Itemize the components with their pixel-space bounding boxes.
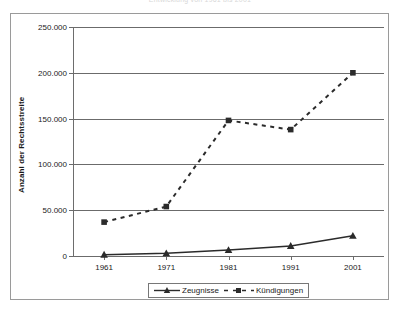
- x-tick-label: 1991: [282, 263, 300, 272]
- x-tick: [353, 256, 354, 260]
- y-tick: [69, 256, 73, 257]
- x-tick: [229, 256, 230, 260]
- data-point-marker: [349, 232, 357, 239]
- legend-sample-dashed-square-icon: [224, 286, 254, 295]
- x-tick-label: 1971: [157, 263, 175, 272]
- plot-area: 050.000100.000150.000200.000250.000 1961…: [73, 27, 384, 256]
- y-axis-title: Anzahl der Rechtsstreite: [13, 70, 29, 220]
- legend-sample-solid-triangle-icon: [154, 286, 180, 295]
- y-tick-label: 150.000: [38, 114, 67, 123]
- data-point-marker: [226, 118, 232, 124]
- y-tick-label: 50.000: [43, 206, 67, 215]
- chart-screenshot: Entwicklung von 1961 bis 2001 Anzahl der…: [0, 0, 397, 312]
- legend-entry-kuendigungen: Kündigungen: [224, 286, 303, 295]
- y-tick-label: 0: [63, 252, 67, 261]
- x-tick-label: 2001: [344, 263, 362, 272]
- legend-label-zeugnisse: Zeugnisse: [182, 287, 219, 295]
- series-line-kündigungen: [104, 73, 353, 222]
- data-point-marker: [288, 127, 294, 133]
- y-tick-label: 200.000: [38, 68, 67, 77]
- legend-label-kuendigungen: Kündigungen: [256, 287, 303, 295]
- data-point-marker: [101, 219, 107, 225]
- x-tick: [291, 256, 292, 260]
- chart-title: Entwicklung von 1961 bis 2001: [90, 0, 310, 5]
- x-tick-label: 1981: [220, 263, 238, 272]
- y-tick-label: 250.000: [38, 23, 67, 32]
- series-layer: [73, 27, 384, 256]
- data-point-marker: [164, 204, 170, 210]
- y-tick-label: 100.000: [38, 160, 67, 169]
- chart-legend: Zeugnisse Kündigungen: [148, 283, 309, 298]
- x-tick-label: 1961: [95, 263, 113, 272]
- legend-entry-zeugnisse: Zeugnisse: [154, 286, 219, 295]
- data-point-marker: [350, 70, 356, 76]
- x-tick: [166, 256, 167, 260]
